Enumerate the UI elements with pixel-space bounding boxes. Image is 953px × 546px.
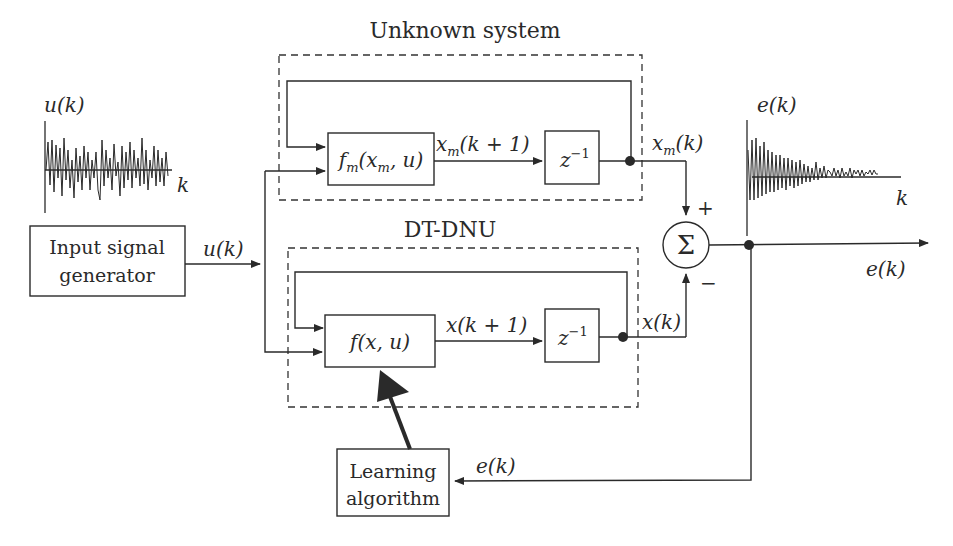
input-generator-line1: Input signal bbox=[49, 236, 164, 258]
x-next-label: x(k + 1) bbox=[446, 313, 527, 337]
adaptation-arrow-head bbox=[377, 370, 409, 402]
plus-sign: + bbox=[697, 196, 714, 220]
unknown-junction-dot bbox=[625, 156, 635, 166]
input-generator-line2: generator bbox=[59, 264, 155, 286]
dtdnu-label: DT-DNU bbox=[404, 217, 496, 242]
f-block-label: f(x, u) bbox=[348, 330, 410, 354]
error-plot-xlabel: k bbox=[896, 186, 908, 210]
error-junction-dot bbox=[744, 240, 754, 250]
learning-line2: algorithm bbox=[346, 487, 440, 509]
x-output-label: x(k) bbox=[642, 310, 681, 334]
error-plot-ylabel: e(k) bbox=[757, 93, 797, 117]
xm-next-label: xm(k + 1) bbox=[436, 132, 530, 159]
minus-sign: − bbox=[700, 271, 717, 295]
xm-output-label: xm(k) bbox=[652, 131, 703, 158]
sigma-symbol: Σ bbox=[677, 230, 695, 260]
block-diagram: Unknown system fm(xm, u) xm(k + 1) z−1 x… bbox=[0, 0, 953, 546]
input-signal-plot: u(k) k bbox=[44, 93, 189, 213]
error-signal-plot: e(k) k bbox=[747, 93, 908, 236]
dtdnu-junction-dot bbox=[618, 332, 628, 342]
adaptation-arrow-shaft bbox=[389, 394, 410, 449]
error-output-line bbox=[709, 243, 928, 245]
u-signal-label: u(k) bbox=[203, 237, 244, 261]
input-plot-ylabel: u(k) bbox=[44, 93, 85, 117]
error-output-label: e(k) bbox=[866, 257, 906, 281]
unknown-system-label: Unknown system bbox=[369, 18, 560, 43]
u-to-dtdnu-line bbox=[265, 171, 322, 352]
learning-input-label: e(k) bbox=[476, 454, 516, 478]
learning-line1: Learning bbox=[350, 460, 437, 482]
input-plot-xlabel: k bbox=[177, 173, 189, 197]
